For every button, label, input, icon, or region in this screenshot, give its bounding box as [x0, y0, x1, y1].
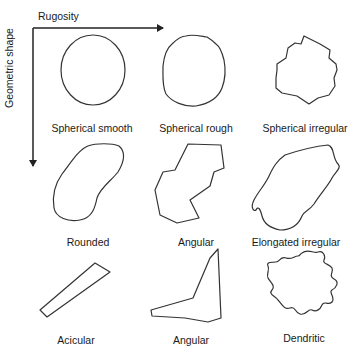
- rugosity-axis-label: Rugosity: [38, 10, 79, 22]
- label-angular-2: Angular: [173, 334, 209, 346]
- diagram-canvas: [0, 0, 354, 356]
- label-dendritic: Dendritic: [283, 332, 324, 344]
- label-acicular: Acicular: [57, 334, 94, 346]
- label-spherical-rough: Spherical rough: [159, 122, 233, 134]
- label-spherical-smooth: Spherical smooth: [51, 122, 132, 134]
- spherical-smooth-shape: [61, 35, 125, 105]
- spherical-irregular-shape: [276, 36, 337, 104]
- label-rounded: Rounded: [67, 236, 110, 248]
- rounded-shape: [53, 144, 123, 221]
- dendritic-shape: [267, 251, 337, 314]
- elongated-irregular-shape: [252, 145, 339, 230]
- acicular-shape: [40, 263, 110, 317]
- spherical-rough-shape: [163, 35, 225, 106]
- angular-shape-1: [155, 144, 224, 223]
- geometric-shape-axis-label: Geometric shape: [3, 28, 15, 108]
- label-angular-1: Angular: [178, 236, 214, 248]
- label-elongated-irregular: Elongated irregular: [252, 236, 341, 248]
- label-spherical-irregular: Spherical irregular: [262, 122, 347, 134]
- particle-shape-diagram: Rugosity Geometric shape Spherical smoot…: [0, 0, 354, 356]
- angular-shape-2: [151, 249, 221, 322]
